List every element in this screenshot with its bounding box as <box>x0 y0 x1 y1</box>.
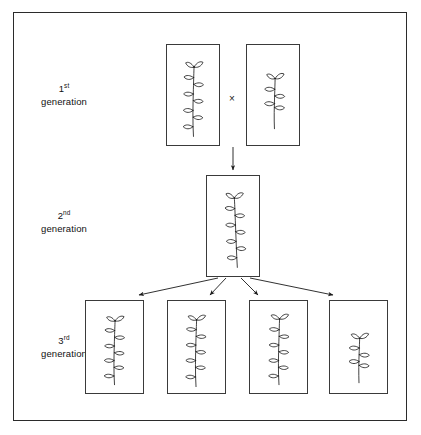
generation-2-word: generation <box>18 222 110 235</box>
short-plant-icon <box>247 45 299 145</box>
cross-symbol: × <box>229 94 235 104</box>
tall-plant-icon <box>168 301 225 393</box>
generation-3-box-4 <box>329 300 388 394</box>
generation-2-ordinal: 2nd <box>18 209 110 222</box>
generation-1-ordinal: 1st <box>18 82 110 95</box>
tall-plant-icon <box>86 301 143 393</box>
generation-1-box-1 <box>166 44 220 146</box>
generation-3-box-2 <box>167 300 226 394</box>
generation-2-box-1 <box>206 175 260 277</box>
generation-1-box-2 <box>246 44 300 146</box>
generation-1-word: generation <box>18 95 110 108</box>
generation-2-label: 2nd generation <box>18 209 110 235</box>
generation-3-box-1 <box>85 300 144 394</box>
genetics-inheritance-diagram: 1st generation 2nd generation 3rd genera… <box>0 0 421 435</box>
tall-plant-icon <box>250 301 307 393</box>
tall-plant-icon <box>207 176 259 276</box>
generation-1-label: 1st generation <box>18 82 110 108</box>
short-plant-icon <box>330 301 387 393</box>
tall-plant-icon <box>167 45 219 145</box>
generation-3-box-3 <box>249 300 308 394</box>
